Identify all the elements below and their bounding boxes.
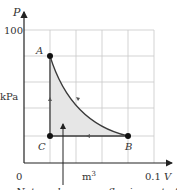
annotation-text: Net work: energy flowing out of the bbox=[15, 186, 177, 190]
label-b: B bbox=[124, 141, 132, 152]
y-tick-100: 100 bbox=[4, 25, 23, 36]
point-c bbox=[47, 133, 53, 139]
point-a bbox=[47, 53, 53, 59]
x-axis-unit: m3 bbox=[82, 170, 96, 182]
x-tick-0: 0 bbox=[16, 171, 22, 182]
x-axis-symbol: V bbox=[164, 171, 173, 182]
x-tick-0-1: 0.1 bbox=[145, 171, 161, 182]
y-axis-symbol: P bbox=[12, 6, 21, 19]
y-axis-unit: kPa bbox=[0, 91, 18, 102]
label-c: C bbox=[38, 141, 46, 152]
label-a: A bbox=[35, 45, 43, 56]
point-b bbox=[125, 133, 131, 139]
direction-arrow-ab bbox=[76, 97, 80, 101]
pv-diagram: P 100 kPa 0 m3 0.1 V A B C Net work: ene… bbox=[0, 0, 177, 190]
work-area bbox=[50, 56, 128, 136]
